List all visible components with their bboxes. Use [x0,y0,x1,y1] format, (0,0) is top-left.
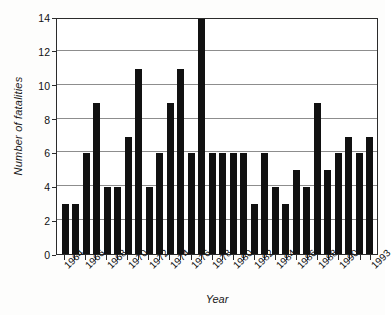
y-axis-tick-label: 12 [10,46,50,58]
bar-slot [270,19,281,254]
y-axis-tick-label: 4 [10,181,50,193]
bar-slot [291,19,302,254]
bar-slot [102,19,113,254]
bar-slot [281,19,292,254]
bar-slot [365,19,376,254]
bar [83,153,90,254]
bar-slot [239,19,250,254]
bar-slot [312,19,323,254]
bar-slot [165,19,176,254]
bar-slot [249,19,260,254]
bar-slot [134,19,145,254]
bar-slot [228,19,239,254]
y-axis-tick-label: 8 [10,114,50,126]
bar-slot [123,19,134,254]
bar [72,204,79,254]
bar [219,153,226,254]
bar-slot [144,19,155,254]
bar [188,153,195,254]
bar [167,103,174,254]
bar [324,170,331,254]
bar [303,187,310,254]
bar [146,187,153,254]
bar-series [57,19,377,254]
bar [261,153,268,254]
bar [230,153,237,254]
bar [293,170,300,254]
bar [135,69,142,254]
bar-slot [260,19,271,254]
bar-slot [197,19,208,254]
bar-slot [92,19,103,254]
y-axis-tick-label: 14 [10,12,50,24]
y-axis-tick-label: 6 [10,147,50,159]
bar [209,153,216,254]
bar [314,103,321,254]
bar [156,153,163,254]
x-axis-title: Year [56,293,378,305]
y-axis-tick-label: 0 [10,249,50,261]
bar [198,19,205,254]
bar-slot [333,19,344,254]
bar [356,153,363,254]
bar-slot [207,19,218,254]
bar [282,204,289,254]
bar-slot [71,19,82,254]
bar-slot [176,19,187,254]
bar [240,153,247,254]
bar [104,187,111,254]
bar-slot [186,19,197,254]
bar [114,187,121,254]
y-axis-tick-label: 2 [10,215,50,227]
bar-slot [218,19,229,254]
bar [251,204,258,254]
bar [125,137,132,255]
bar [335,153,342,254]
y-axis-tick-label: 10 [10,80,50,92]
bar-slot [60,19,71,254]
bar [93,103,100,254]
bar-slot [81,19,92,254]
bar-slot [354,19,365,254]
bar [177,69,184,254]
bar-slot [302,19,313,254]
bar [272,187,279,254]
plot-area [56,18,378,255]
bar [366,137,373,255]
bar-slot [113,19,124,254]
bar [62,204,69,254]
bar-slot [344,19,355,254]
bar [345,137,352,255]
bar-slot [155,19,166,254]
bar-slot [323,19,334,254]
